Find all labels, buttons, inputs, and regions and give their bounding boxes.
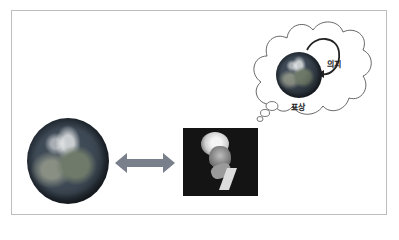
earth-globe-image — [27, 118, 109, 204]
label-representation: 표상 — [291, 101, 305, 112]
double-arrow-icon — [115, 153, 175, 173]
philosopher-portrait-image — [183, 128, 258, 196]
earth-globe-small-image — [276, 52, 322, 98]
label-will: 의지 — [327, 58, 341, 69]
